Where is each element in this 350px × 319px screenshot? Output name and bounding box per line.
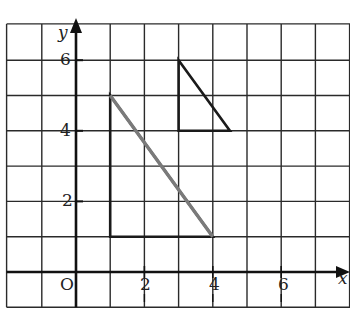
coordinate-grid-figure: y x O 2 4 6 6 4 2: [0, 0, 350, 319]
shapes: [110, 60, 230, 237]
x-tick-label-2: 2: [140, 274, 151, 294]
y-tick-label-4: 4: [60, 120, 71, 140]
labels: y x O 2 4 6 6 4 2: [57, 22, 348, 294]
x-tick-label-4: 4: [209, 274, 220, 294]
y-axis-arrow-icon: [70, 18, 82, 33]
x-axis-label: x: [338, 268, 348, 288]
x-tick-label-6: 6: [278, 274, 289, 294]
y-tick-label-2: 2: [62, 190, 73, 210]
y-axis-label: y: [57, 22, 68, 42]
y-tick-label-6: 6: [60, 49, 71, 69]
origin-label: O: [60, 274, 74, 294]
